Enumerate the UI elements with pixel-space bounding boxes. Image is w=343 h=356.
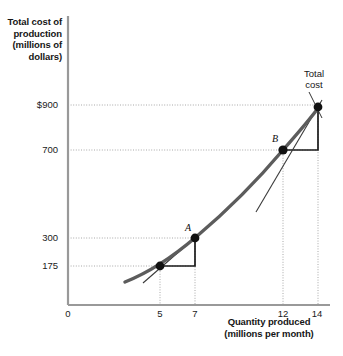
total-cost-curve: [125, 107, 319, 282]
plot-area: [0, 0, 343, 356]
data-point-marker-a: [191, 234, 200, 243]
data-point-marker-5-175: [156, 262, 165, 271]
data-point-marker-14-900: [314, 103, 323, 112]
data-point-marker-b: [278, 145, 287, 154]
cost-curve-chart: Total cost of production (millions of do…: [0, 0, 343, 356]
